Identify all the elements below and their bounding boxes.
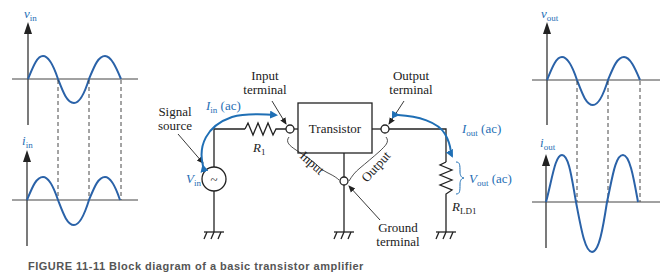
- i-in-ac-label: Iin (ac): [205, 98, 241, 115]
- ground-terminal-label-2: terminal: [376, 234, 420, 249]
- source-tilde-icon: ~: [210, 172, 217, 187]
- arrow-up-icon: [24, 22, 32, 34]
- ground-terminal-pointer: [349, 186, 380, 220]
- r1-label: R1: [252, 140, 265, 157]
- signal-source-pointer: [178, 134, 203, 163]
- ground-terminal-label-1: Ground: [378, 220, 418, 235]
- ground-terminal-node: [340, 177, 348, 185]
- rld1-label: RLD1: [451, 199, 476, 216]
- arrow-up-icon: [23, 150, 31, 162]
- output-terminal-label-2: terminal: [389, 82, 433, 97]
- graph-i-in: iin: [12, 133, 138, 246]
- resistor-rld1: [440, 162, 452, 232]
- graph-i-out: iout: [532, 135, 660, 252]
- i-in-current-arrow: [202, 114, 276, 166]
- v-out-ac-label: Vout (ac): [469, 171, 512, 188]
- arrow-up-icon: [542, 154, 550, 166]
- input-terminal-label-1: Input: [251, 68, 279, 83]
- transistor-label: Transistor: [309, 121, 362, 136]
- i-out-ac-label: Iout (ac): [461, 121, 501, 138]
- ground-icon: [436, 232, 456, 239]
- input-terminal-node: [286, 125, 294, 133]
- input-terminal-pointer: [272, 101, 286, 124]
- signal-source-label-1: Signal: [158, 104, 192, 119]
- wire-output-to-load: [389, 129, 446, 162]
- signal-source-label-2: source: [158, 118, 192, 133]
- ground-icon: [334, 232, 354, 239]
- output-terminal-label-1: Output: [393, 68, 430, 83]
- resistor-r1: [245, 123, 286, 135]
- i-in-label: iin: [22, 133, 33, 150]
- output-terminal-node: [381, 125, 389, 133]
- wire-source-to-r1: [214, 129, 245, 167]
- i-out-label: iout: [540, 135, 556, 152]
- v-out-waveform: [547, 57, 640, 105]
- arrow-up-icon: [543, 22, 551, 34]
- output-terminal-pointer: [389, 101, 404, 124]
- i-out-current-arrow: [398, 115, 452, 156]
- v-in-source-label: Vin: [186, 171, 201, 188]
- figure-caption: FIGURE 11-11 Block diagram of a basic tr…: [28, 260, 364, 272]
- graph-v-out: vout: [532, 6, 660, 125]
- input-terminal-label-2: terminal: [243, 82, 287, 97]
- v-out-label: vout: [541, 6, 559, 23]
- v-in-label: vin: [24, 6, 37, 23]
- vout-brace: [456, 162, 464, 194]
- i-in-waveform: [27, 177, 120, 225]
- i-out-waveform: [546, 155, 638, 252]
- graph-v-in: vin: [12, 6, 138, 125]
- ground-icon: [204, 232, 224, 239]
